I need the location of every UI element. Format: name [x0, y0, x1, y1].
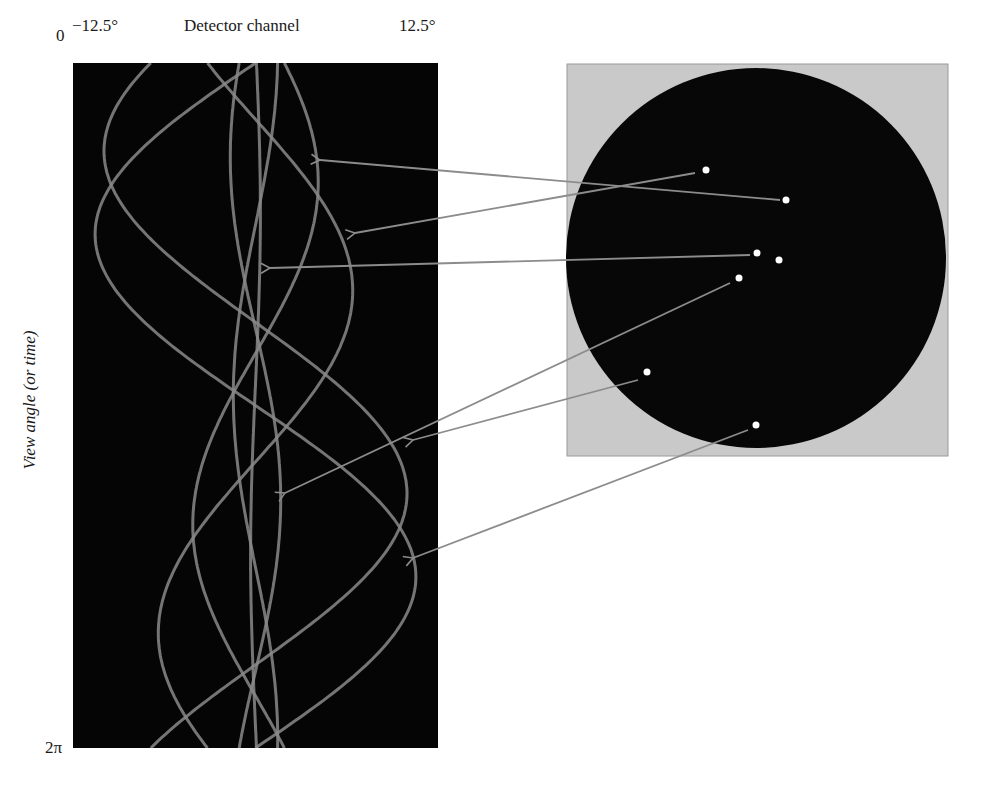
phantom-point-p7 [753, 422, 760, 429]
y-bottom-label: 2π [45, 738, 62, 758]
phantom-point-p3 [754, 250, 761, 257]
x-min-label: −12.5° [72, 16, 118, 36]
phantom-point-p2 [783, 197, 790, 204]
sinogram-figure [0, 0, 991, 789]
y-top-label: 0 [56, 26, 65, 46]
phantom-point-p4 [776, 257, 783, 264]
phantom-panel [566, 64, 948, 456]
phantom-point-p1 [703, 167, 710, 174]
x-max-label: 12.5° [399, 16, 436, 36]
phantom-point-p5 [736, 275, 743, 282]
y-axis-title: View angle (or time) [20, 331, 40, 470]
phantom-point-p6 [644, 369, 651, 376]
x-axis-title: Detector channel [184, 16, 300, 36]
